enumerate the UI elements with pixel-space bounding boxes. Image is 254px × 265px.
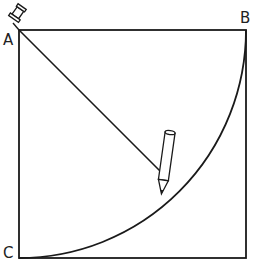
pushpin-icon	[9, 3, 27, 30]
label-c: C	[3, 246, 13, 261]
label-a: A	[3, 33, 13, 48]
compass-construction-diagram	[0, 0, 254, 265]
pencil-icon	[156, 130, 175, 195]
label-b: B	[240, 11, 250, 26]
radius-line	[19, 30, 162, 173]
